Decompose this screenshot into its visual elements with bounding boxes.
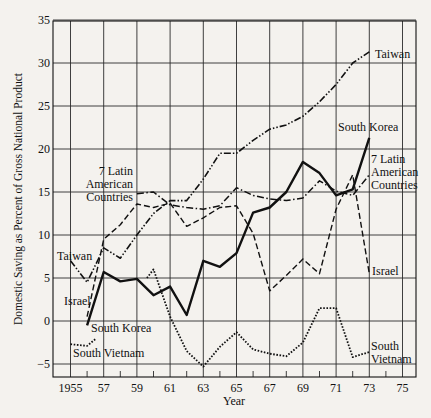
series-label: Taiwan bbox=[375, 47, 410, 61]
y-tick-label: 35 bbox=[38, 13, 50, 27]
series-label: South Vietnam bbox=[73, 346, 145, 360]
x-axis-label: Year bbox=[223, 394, 245, 408]
series-label: South Korea bbox=[91, 321, 152, 335]
x-tick-label: 57 bbox=[98, 381, 110, 395]
y-tick-label: 30 bbox=[38, 56, 50, 70]
y-axis-label: Domestic Saving as Percent of Gross Nati… bbox=[12, 72, 25, 325]
x-tick-label: 63 bbox=[197, 381, 209, 395]
series-label: Taiwan bbox=[57, 249, 92, 263]
x-tick-label: 67 bbox=[264, 381, 276, 395]
y-tick-label: 5 bbox=[44, 271, 50, 285]
line-chart: −505101520253035195557596163656769717375… bbox=[0, 0, 431, 418]
x-tick-label: 73 bbox=[363, 381, 375, 395]
x-tick-label: 61 bbox=[164, 381, 176, 395]
y-tick-label: 25 bbox=[38, 99, 50, 113]
x-tick-label: 71 bbox=[330, 381, 342, 395]
x-tick-label: 75 bbox=[397, 381, 409, 395]
series-label: South Korea bbox=[338, 120, 399, 134]
y-tick-label: 0 bbox=[44, 314, 50, 328]
y-tick-label: 10 bbox=[38, 228, 50, 242]
y-tick-label: 15 bbox=[38, 185, 50, 199]
y-tick-label: 20 bbox=[38, 142, 50, 156]
x-tick-label: 69 bbox=[297, 381, 309, 395]
y-tick-label: −5 bbox=[37, 357, 50, 371]
series-label: Israel bbox=[372, 264, 399, 278]
x-tick-label: 1955 bbox=[59, 381, 83, 395]
x-tick-label: 65 bbox=[231, 381, 243, 395]
series-label: Israel bbox=[64, 294, 91, 308]
x-tick-label: 59 bbox=[131, 381, 143, 395]
